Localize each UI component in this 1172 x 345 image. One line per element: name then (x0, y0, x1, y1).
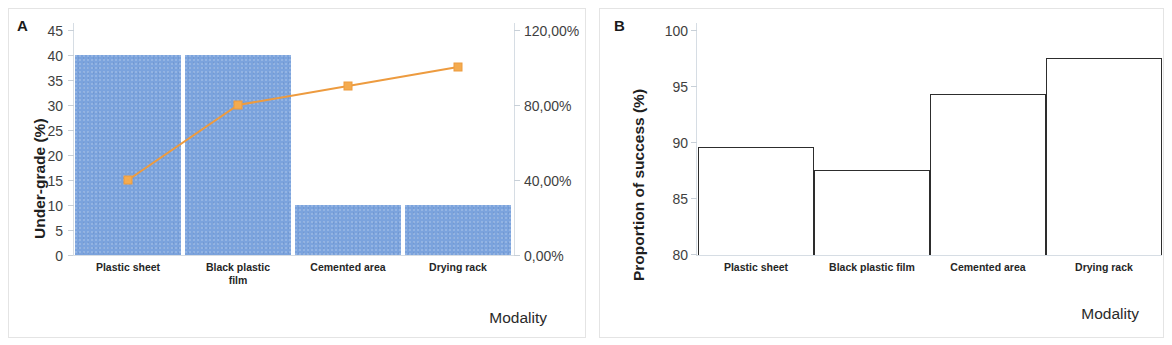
panel-b: B Proportion of success (%) 100 95 90 85… (599, 8, 1164, 338)
panel-b-bar-plastic-sheet[interactable] (698, 147, 814, 256)
panel-b-y-axis-title: Proportion of success (%) (630, 89, 648, 281)
figure-root: A Under-grade (%) 45 40 35 30 25 20 15 1… (0, 0, 1172, 345)
panel-a-rtick-label-40: 40,00% (524, 174, 571, 188)
panel-b-x-axis-spine (696, 255, 1162, 256)
panel-b-tick-85 (691, 198, 697, 199)
panel-a-right-axis-spine (514, 23, 515, 256)
panel-b-tick-90 (691, 142, 697, 143)
panel-b-bar-black-plastic-film[interactable] (814, 170, 930, 256)
panel-b-xtick-black-plastic-film: Black plastic film (814, 261, 930, 274)
panel-b-ytick-80: 80 (650, 248, 688, 262)
panel-a-rtick-label-120: 120,00% (524, 24, 579, 38)
panel-a-x-axis-spine (73, 255, 515, 256)
panel-a-x-axis-title: Modality (489, 309, 547, 327)
panel-a-xtick-drying-rack: Drying rack (403, 261, 513, 274)
panel-a-xtick-black-plastic-film: Black plastic film (183, 261, 293, 287)
panel-a-rtick-40 (514, 180, 520, 181)
panel-b-x-axis-title: Modality (1081, 305, 1139, 323)
panel-b-ytick-85: 85 (650, 192, 688, 206)
panel-a-xtick-cemented-area: Cemented area (293, 261, 403, 274)
panel-a: A Under-grade (%) 45 40 35 30 25 20 15 1… (8, 8, 586, 338)
panel-a-cumulative-line (128, 67, 458, 180)
panel-b-ytick-95: 95 (650, 80, 688, 94)
panel-b-bar-cemented-area[interactable] (930, 94, 1046, 256)
panel-b-tick-100 (691, 30, 697, 31)
panel-b-left-axis-spine (696, 23, 697, 255)
panel-a-rtick-80 (514, 105, 520, 106)
panel-b-xtick-plastic-sheet: Plastic sheet (698, 261, 814, 274)
panel-b-letter: B (614, 17, 625, 34)
panel-a-rtick-label-80: 80,00% (524, 99, 571, 113)
panel-a-line-marker-black-plastic-film[interactable] (234, 101, 242, 109)
panel-a-rtick-label-0: 0,00% (524, 249, 564, 263)
panel-a-line-marker-cemented-area[interactable] (344, 82, 352, 90)
panel-b-xtick-cemented-area: Cemented area (930, 261, 1046, 274)
panel-a-xtick-plastic-sheet: Plastic sheet (73, 261, 183, 274)
panel-b-tick-95 (691, 86, 697, 87)
panel-b-ytick-100: 100 (650, 24, 688, 38)
panel-a-line-marker-drying-rack[interactable] (454, 63, 462, 71)
panel-a-cumulative-line-series (9, 9, 587, 339)
panel-b-bar-drying-rack[interactable] (1046, 58, 1162, 256)
panel-a-rtick-120 (514, 30, 520, 31)
panel-a-rtick-0 (514, 255, 520, 256)
panel-b-xtick-drying-rack: Drying rack (1046, 261, 1162, 274)
panel-b-ytick-90: 90 (650, 136, 688, 150)
panel-a-line-marker-plastic-sheet[interactable] (124, 176, 132, 184)
